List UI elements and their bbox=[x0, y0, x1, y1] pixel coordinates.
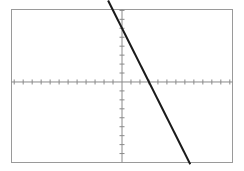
plot-canvas bbox=[0, 0, 244, 171]
linear-function-graph bbox=[0, 0, 244, 171]
